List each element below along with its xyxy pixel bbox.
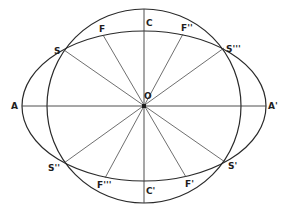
label-a-prime: A' — [268, 101, 278, 111]
label-s-prime: S' — [228, 161, 237, 171]
label-s-triple-prime: S''' — [226, 44, 241, 54]
label-a: A — [11, 101, 18, 111]
label-c: C — [146, 18, 153, 28]
label-f-double-prime: F'' — [181, 23, 193, 33]
label-f-triple-prime: F''' — [97, 180, 111, 190]
label-s-double-prime: S'' — [48, 163, 60, 173]
label-o: O — [144, 91, 152, 101]
label-f: F — [99, 24, 105, 34]
label-f-prime: F' — [185, 179, 194, 189]
label-c-prime: C' — [146, 186, 155, 196]
label-s: S — [54, 46, 60, 56]
ellipse-circle-diagram: O A A' C C' S S' S'' S''' F F' F'' F''' — [0, 0, 290, 217]
center-point-marker — [142, 104, 146, 108]
